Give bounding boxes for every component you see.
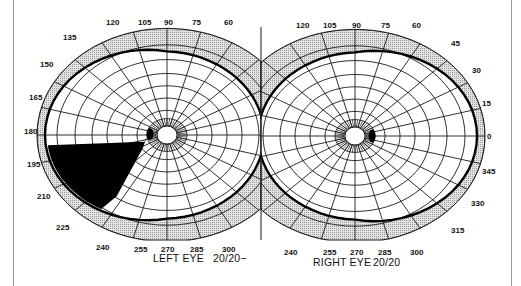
left-angle-label: 180 <box>24 127 38 136</box>
right-angle-label: 255 <box>323 248 337 257</box>
right-angle-label: 285 <box>378 248 392 257</box>
left-angle-label: 300 <box>222 245 236 254</box>
fixation-point <box>345 127 365 145</box>
left-angle-label: 75 <box>192 18 201 27</box>
left-angle-label: 195 <box>27 160 41 169</box>
left-angle-label: 225 <box>56 223 70 232</box>
left-angle-label: 210 <box>37 192 51 201</box>
right-angle-label: 315 <box>451 226 465 235</box>
blind-spot-left <box>147 128 154 140</box>
left-angle-label: 165 <box>29 93 43 102</box>
blind-spot-right <box>369 130 376 143</box>
right-angle-label: 345 <box>482 167 496 176</box>
left-angle-label: 90 <box>164 18 173 27</box>
right-angle-label: 240 <box>284 248 298 257</box>
right-angle-label: 30 <box>472 66 481 75</box>
right-angle-label: 0 <box>487 132 492 141</box>
left-angle-label: 60 <box>224 18 233 27</box>
right-eye-acuity: 20/20 <box>373 256 400 268</box>
right-angle-label: 75 <box>381 21 390 30</box>
left-angle-label: 135 <box>63 33 77 42</box>
right-angle-label: 270 <box>350 248 364 257</box>
visual-field-charts: LEFT EYE 20/20− RIGHT EYE 20/20 13512010… <box>0 0 521 286</box>
right-angle-label: 120 <box>296 21 310 30</box>
right-angle-label: 90 <box>352 21 361 30</box>
right-angle-label: 60 <box>412 21 421 30</box>
left-angle-label: 270 <box>161 245 175 254</box>
fixation-point <box>157 126 177 144</box>
right-eye-label: RIGHT EYE <box>313 256 371 268</box>
right-angle-label: 105 <box>323 21 337 30</box>
right-angle-label: 300 <box>410 248 424 257</box>
left-angle-label: 120 <box>106 18 120 27</box>
left-angle-label: 150 <box>40 60 54 69</box>
left-angle-label: 285 <box>190 245 204 254</box>
left-angle-label: 105 <box>138 18 152 27</box>
left-angle-label: 240 <box>96 243 110 252</box>
left-angle-label: 255 <box>134 245 148 254</box>
right-angle-label: 15 <box>482 99 491 108</box>
right-angle-label: 45 <box>451 39 460 48</box>
right-angle-label: 330 <box>471 199 485 208</box>
